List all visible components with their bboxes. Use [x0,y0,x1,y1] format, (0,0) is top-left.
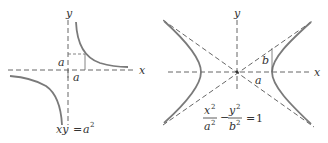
label-a-horizontal: a [73,71,80,84]
svg-text:2: 2 [236,103,240,111]
svg-text:=: = [73,123,82,136]
svg-text:2: 2 [211,103,215,111]
rectangular-hyperbola-panel: x y a a xy = a 2 [8,7,146,136]
hyperbola-figure: x y a a xy = a 2 x y [0,0,328,143]
svg-text:xy: xy [56,123,69,136]
center-point [236,71,239,74]
svg-text:1: 1 [256,112,263,125]
hyperbola-branch-lower-left [10,76,62,125]
equation-standard-hyperbola: x 2 a 2 − y 2 b 2 = 1 [203,103,263,133]
equation-xy-a2: xy = a 2 [56,121,94,136]
svg-text:−: − [220,111,229,124]
y-axis-label: y [233,7,241,20]
standard-hyperbola-panel: x y b a x 2 a 2 − y 2 b 2 = 1 [163,7,321,133]
hyperbola-branch-upper-right [76,22,128,67]
label-b: b [262,54,269,67]
svg-text:2: 2 [90,121,94,129]
hyperbola-branch-right [272,22,311,124]
label-a-vertical: a [58,56,65,69]
x-axis-label: x [139,64,146,77]
svg-text:b: b [229,120,236,133]
y-axis-label: y [65,7,73,20]
svg-text:a: a [204,120,211,133]
svg-text:x: x [204,104,211,117]
svg-text:2: 2 [236,119,240,127]
svg-text:=: = [246,112,255,125]
label-a: a [255,74,262,87]
svg-text:a: a [83,123,90,136]
svg-text:2: 2 [211,119,215,127]
svg-text:y: y [228,104,236,117]
x-axis-label: x [314,66,321,79]
